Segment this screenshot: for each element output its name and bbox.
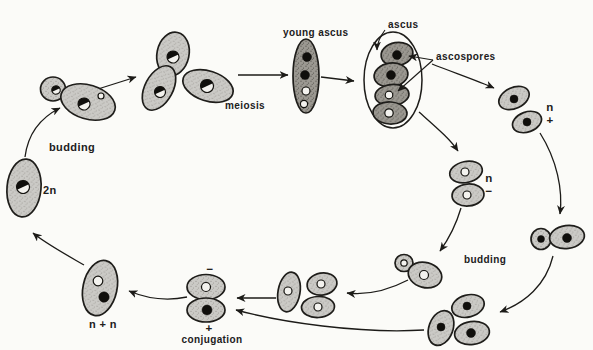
cell-budding-pair-minus xyxy=(395,255,445,292)
diagram-canvas: 2n budding meiosis xyxy=(0,0,593,350)
ascospore-nucleus-minus-icon xyxy=(385,91,393,99)
arrow-n-plus-to-plus-budding xyxy=(540,133,561,214)
nucleus-minus-icon xyxy=(401,260,407,266)
ascospore-nucleus-minus-icon xyxy=(302,87,310,95)
label-budding-top: budding xyxy=(49,141,95,153)
nucleus-minus-icon xyxy=(93,276,103,286)
arrow-ascospores-to-n-plus-cells xyxy=(432,64,494,88)
label-n-plus-n-zygote: n + n xyxy=(89,318,117,330)
label-n-minus-n: n xyxy=(485,172,492,184)
cells-n-minus-spores xyxy=(448,158,485,207)
arrow-budding-to-meiosis xyxy=(98,77,136,89)
ascospore-nucleus-plus-icon xyxy=(393,51,402,60)
yeast-life-cycle-diagram: 2n budding meiosis xyxy=(0,0,593,350)
arrow-minus-budding-to-minus-cluster xyxy=(347,280,408,294)
arrow-n-minus-to-minus-budding xyxy=(440,208,461,251)
ascospore-nucleus-minus-icon xyxy=(385,109,393,117)
label-young-ascus: young ascus xyxy=(283,27,349,38)
arrow-zygote-to-2n xyxy=(33,233,84,265)
nucleus-minus-icon xyxy=(202,283,211,292)
nucleus-minus-icon xyxy=(420,271,429,280)
cells-plus-cluster xyxy=(424,291,491,349)
ascospore-nucleus-plus-icon xyxy=(301,71,310,80)
nucleus-plus-icon xyxy=(202,305,212,315)
cell-2n-diploid xyxy=(5,158,44,219)
label-n-minus-sign: − xyxy=(485,185,492,197)
cell-young-ascus xyxy=(293,39,319,113)
label-conjugation: conjugation xyxy=(181,334,242,345)
arrow-plus-budding-to-plus-cluster xyxy=(500,256,553,312)
label-conjugation-minus: − xyxy=(206,263,213,275)
nucleus-minus-icon xyxy=(284,287,292,295)
ascospore-nucleus-minus-icon xyxy=(300,100,307,107)
cell-budding-pair-diploid xyxy=(41,77,120,126)
label-conjugation-plus: + xyxy=(205,322,212,334)
cell-budding-pair-plus xyxy=(531,223,586,251)
cell-zygote-n-plus-n xyxy=(78,257,123,319)
cells-n-plus-spores xyxy=(495,82,544,137)
cells-minus-cluster xyxy=(275,270,339,318)
leader-ascospores-top xyxy=(409,56,433,60)
label-n-plus-n: n xyxy=(546,101,553,113)
vacuole-icon xyxy=(98,93,104,99)
arrow-ascus-to-n-minus-cells xyxy=(419,112,458,151)
nucleus-plus-icon xyxy=(510,95,518,103)
leader-ascus xyxy=(377,30,385,50)
nucleus-minus-icon xyxy=(314,303,322,311)
cells-conjugation-pair xyxy=(187,275,225,323)
arrow-conjugation-to-zygote xyxy=(129,291,187,299)
label-budding-right: budding xyxy=(464,254,506,265)
arrow-young-ascus-to-ascus xyxy=(321,77,354,81)
nucleus-plus-icon xyxy=(538,236,545,243)
nucleus-minus-icon xyxy=(317,280,325,288)
label-n-plus-sign: + xyxy=(546,114,553,126)
nucleus-plus-icon xyxy=(523,118,531,126)
cells-meiosis-trio xyxy=(135,29,237,116)
nucleus-minus-icon xyxy=(463,191,471,199)
nucleus-plus-icon xyxy=(99,292,109,302)
nucleus-plus-icon xyxy=(467,329,476,338)
ascus-with-ascospores xyxy=(364,32,422,128)
label-meiosis: meiosis xyxy=(225,100,265,111)
nucleus-plus-icon xyxy=(463,302,471,310)
label-ascospores: ascospores xyxy=(436,51,496,62)
nucleus-plus-icon xyxy=(563,234,572,243)
nucleus-minus-icon xyxy=(461,168,469,176)
nucleus-plus-icon xyxy=(437,323,445,331)
label-2n: 2n xyxy=(43,184,57,196)
ascospore-nucleus-plus-icon xyxy=(303,53,312,62)
ascospore-nucleus-plus-icon xyxy=(387,71,396,80)
label-ascus: ascus xyxy=(388,19,418,30)
